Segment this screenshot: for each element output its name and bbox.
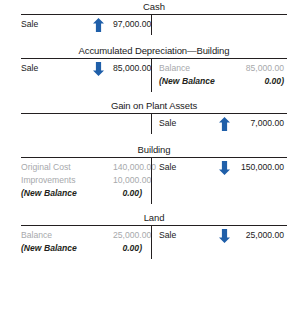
empty-side: [159, 18, 287, 31]
account-entry-row: (New Balance0.00): [21, 242, 145, 255]
entry-label: Improvements: [21, 174, 83, 187]
arrow-down-icon: [209, 229, 239, 243]
t-account-list: CashSale97,000.00Accumulated Depreciatio…: [0, 0, 308, 266]
entry-amount: 0.00): [239, 75, 287, 88]
t-account: BuildingOriginal Cost140,000.00Improveme…: [21, 143, 287, 204]
account-entry-row: Sale97,000.00: [21, 18, 145, 31]
entry-amount: 25,000.00: [239, 229, 287, 242]
entry-amount: 10,000.00: [113, 174, 154, 187]
account-title: Building: [21, 143, 287, 157]
t-account-figure: CashSale97,000.00Accumulated Depreciatio…: [0, 0, 308, 317]
account-spacer: [0, 92, 308, 99]
entry-label: Original Cost: [21, 161, 83, 174]
account-spacer: [0, 35, 308, 44]
entry-label: Sale: [159, 117, 209, 130]
entry-label: Balance: [159, 62, 209, 75]
account-entry-row: Balance25,000.00: [21, 229, 145, 242]
debit-side: Sale97,000.00: [21, 15, 151, 35]
account-body: Original Cost140,000.00Improvements10,00…: [21, 158, 287, 204]
entry-label: Sale: [21, 62, 83, 75]
account-title: Land: [21, 211, 287, 225]
account-entry-row: (New Balance0.00): [21, 187, 145, 200]
entry-amount: 25,000.00: [113, 229, 154, 242]
entry-label: Sale: [159, 229, 209, 242]
entry-label: Balance: [21, 229, 83, 242]
entry-amount: 7,000.00: [239, 117, 287, 130]
entry-amount: 0.00): [113, 187, 145, 200]
account-body: Sale97,000.00: [21, 15, 287, 35]
t-account: Gain on Plant AssetsSale7,000.00: [21, 99, 287, 134]
account-title: Accumulated Depreciation—Building: [21, 44, 287, 58]
account-spacer: [0, 134, 308, 143]
debit-side: Balance25,000.00(New Balance0.00): [21, 226, 151, 259]
account-spacer: [0, 204, 308, 211]
account-entry-row: Sale7,000.00: [159, 117, 287, 130]
credit-side: Balance85,000.00(New Balance0.00): [151, 59, 287, 92]
t-account: CashSale97,000.00: [21, 0, 287, 35]
account-body: Sale7,000.00: [21, 114, 287, 134]
credit-side: Sale150,000.00: [151, 158, 287, 204]
account-body: Sale85,000.00Balance85,000.00(New Balanc…: [21, 59, 287, 92]
debit-side: Original Cost140,000.00Improvements10,00…: [21, 158, 151, 204]
entry-label: (New Balance: [21, 187, 83, 200]
account-body: Balance25,000.00(New Balance0.00)Sale25,…: [21, 226, 287, 259]
account-entry-row: (New Balance0.00): [159, 75, 287, 88]
account-entry-row: Sale25,000.00: [159, 229, 287, 242]
account-entry-row: Improvements10,000.00: [21, 174, 145, 187]
account-title: Gain on Plant Assets: [21, 99, 287, 113]
entry-amount: 150,000.00: [239, 161, 287, 174]
account-entry-row: Sale85,000.00: [21, 62, 145, 75]
entry-label: (New Balance: [21, 242, 83, 255]
t-account: LandBalance25,000.00(New Balance0.00)Sal…: [21, 211, 287, 259]
debit-side: [21, 114, 151, 134]
arrow-up-icon: [209, 117, 239, 131]
empty-side: [21, 117, 145, 130]
arrow-down-icon: [209, 161, 239, 175]
entry-amount: 97,000.00: [113, 18, 154, 31]
entry-label: Sale: [159, 161, 209, 174]
arrow-up-icon: [83, 18, 113, 32]
arrow-down-icon: [83, 62, 113, 76]
debit-side: Sale85,000.00: [21, 59, 151, 92]
entry-amount: 85,000.00: [113, 62, 154, 75]
credit-side: Sale25,000.00: [151, 226, 287, 259]
entry-label: Sale: [21, 18, 83, 31]
entry-amount: 85,000.00: [239, 62, 287, 75]
entry-amount: 0.00): [113, 242, 145, 255]
t-account: Accumulated Depreciation—BuildingSale85,…: [21, 44, 287, 92]
account-entry-row: Original Cost140,000.00: [21, 161, 145, 174]
account-entry-row: Sale150,000.00: [159, 161, 287, 174]
account-title: Cash: [21, 0, 287, 14]
credit-side: [151, 15, 287, 35]
credit-side: Sale7,000.00: [151, 114, 287, 134]
entry-label: (New Balance: [159, 75, 209, 88]
account-entry-row: Balance85,000.00: [159, 62, 287, 75]
account-spacer: [0, 259, 308, 266]
